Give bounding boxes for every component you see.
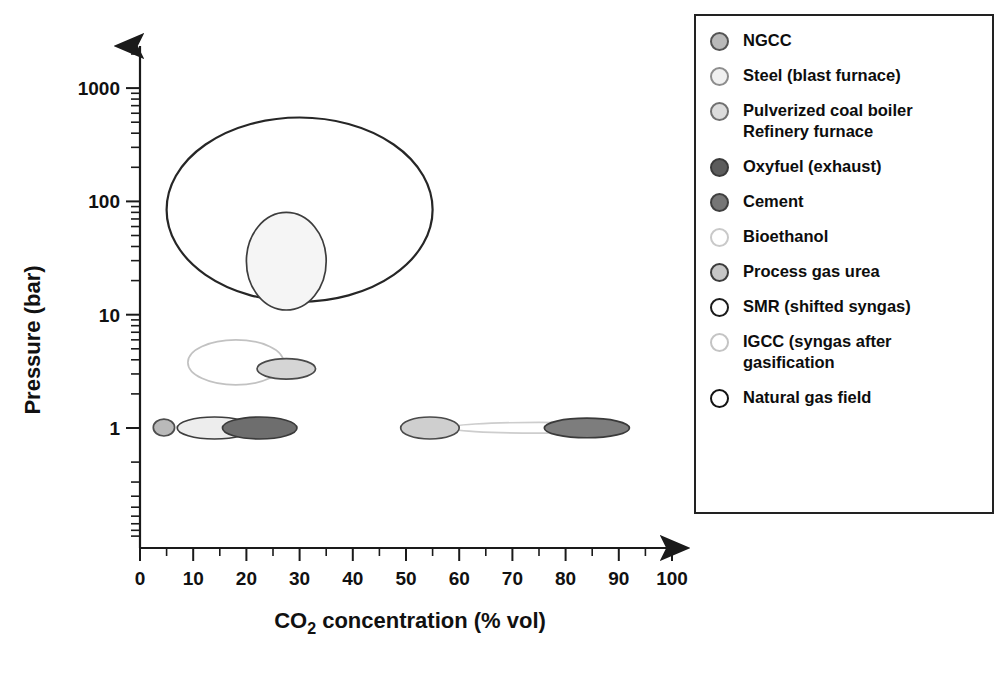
legend-marker-icon — [710, 389, 729, 408]
x-tick-label: 70 — [502, 568, 523, 589]
x-tick-label: 80 — [555, 568, 576, 589]
legend-item-label: Bioethanol — [743, 226, 828, 247]
x-tick-group — [140, 548, 672, 561]
chart-legend: NGCCSteel (blast furnace)Pulverized coal… — [694, 14, 994, 514]
data-ellipse — [153, 419, 174, 436]
legend-item-label: Cement — [743, 191, 804, 212]
legend-item-label: IGCC (syngas after gasification — [743, 331, 892, 373]
legend-item: Natural gas field — [710, 387, 982, 408]
data-series-group — [153, 118, 629, 439]
y-tick-group — [126, 54, 140, 536]
x-tick-label: 10 — [183, 568, 204, 589]
data-ellipse — [246, 212, 326, 310]
legend-item-list: NGCCSteel (blast furnace)Pulverized coal… — [696, 16, 992, 432]
legend-item-label: Process gas urea — [743, 261, 880, 282]
y-axis-title: Pressure (bar) — [20, 265, 45, 414]
legend-marker-icon — [710, 32, 729, 51]
legend-item: Oxyfuel (exhaust) — [710, 156, 982, 177]
legend-marker-icon — [710, 193, 729, 212]
legend-marker-icon — [710, 263, 729, 282]
x-tick-label: 30 — [289, 568, 310, 589]
y-tick-label: 10 — [99, 305, 120, 326]
legend-item-label: SMR (shifted syngas) — [743, 296, 911, 317]
legend-item-label: Natural gas field — [743, 387, 871, 408]
legend-item: NGCC — [710, 30, 982, 51]
legend-marker-icon — [710, 298, 729, 317]
x-tick-label: 40 — [342, 568, 363, 589]
legend-item: Cement — [710, 191, 982, 212]
y-tick-label: 1000 — [78, 78, 120, 99]
legend-marker-icon — [710, 228, 729, 247]
legend-item: Pulverized coal boiler Refinery furnace — [710, 100, 982, 142]
legend-item: SMR (shifted syngas) — [710, 296, 982, 317]
legend-item: Process gas urea — [710, 261, 982, 282]
x-tick-label: 50 — [395, 568, 416, 589]
x-tick-label-group: 0102030405060708090100 — [135, 568, 688, 589]
legend-item: IGCC (syngas after gasification — [710, 331, 982, 373]
legend-marker-icon — [710, 158, 729, 177]
legend-item-label: NGCC — [743, 30, 792, 51]
x-tick-label: 90 — [608, 568, 629, 589]
data-ellipse — [544, 418, 629, 438]
x-tick-label: 60 — [449, 568, 470, 589]
legend-item-label: Oxyfuel (exhaust) — [743, 156, 881, 177]
legend-item: Steel (blast furnace) — [710, 65, 982, 86]
legend-marker-icon — [710, 102, 729, 121]
x-axis-title: CO2 concentration (% vol) — [274, 608, 546, 637]
chart-root: 1000100101 0102030405060708090100 Pressu… — [0, 0, 1007, 675]
x-tick-label: 0 — [135, 568, 146, 589]
y-tick-label: 1 — [109, 418, 120, 439]
legend-marker-icon — [710, 67, 729, 86]
data-ellipse — [222, 417, 296, 439]
legend-item: Bioethanol — [710, 226, 982, 247]
y-tick-label: 100 — [88, 191, 120, 212]
data-ellipse — [401, 417, 460, 439]
x-tick-label: 100 — [656, 568, 688, 589]
y-tick-label-group: 1000100101 — [78, 78, 121, 439]
legend-item-label: Steel (blast furnace) — [743, 65, 901, 86]
data-ellipse — [257, 359, 316, 380]
legend-item-label: Pulverized coal boiler Refinery furnace — [743, 100, 913, 142]
x-tick-label: 20 — [236, 568, 257, 589]
legend-marker-icon — [710, 333, 729, 352]
